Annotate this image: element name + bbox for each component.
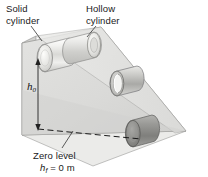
- solid-cylinder-label-line1: Solid: [6, 3, 40, 15]
- solid-cylinder-label: Solid cylinder: [6, 3, 40, 26]
- zero-level-label: Zero level: [33, 150, 76, 162]
- final-height-value: = 0 m: [47, 162, 74, 173]
- solid-cylinder-bottom-endcap: [126, 120, 140, 146]
- solid-cylinder-top-endcap: [38, 44, 53, 71]
- hollow-cylinder-label-line1: Hollow: [86, 3, 120, 15]
- final-height-label: hf = 0 m: [40, 162, 75, 177]
- hollow-cylinder-top-bore: [90, 38, 97, 53]
- hollow-cylinder-label-line2: cylinder: [86, 15, 120, 27]
- hollow-cylinder-label: Hollow cylinder: [86, 3, 120, 26]
- solid-cylinder-label-line2: cylinder: [6, 15, 40, 27]
- height-label: h0: [27, 80, 36, 94]
- height-label-subscript: 0: [33, 86, 37, 94]
